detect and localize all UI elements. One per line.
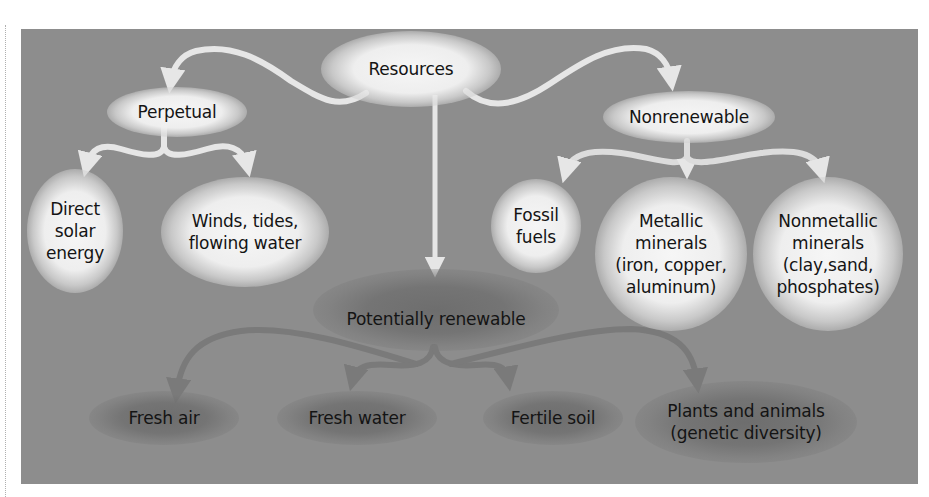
node-plants-and-animals: Plants and animals (genetic diversity) — [635, 381, 857, 463]
node-fresh-water: Fresh water — [277, 391, 437, 445]
node-winds-tides-label: Winds, tides, flowing water — [189, 210, 302, 254]
node-resources-label: Resources — [368, 58, 453, 80]
node-fertile-soil: Fertile soil — [483, 391, 623, 445]
node-direct-solar-energy-label: Direct solar energy — [46, 198, 104, 264]
node-resources: Resources — [321, 31, 501, 107]
node-plants-animals-label: Plants and animals (genetic diversity) — [667, 400, 824, 444]
node-direct-solar-energy: Direct solar energy — [27, 169, 123, 293]
node-perpetual-label: Perpetual — [137, 101, 216, 123]
node-fossil-fuels: Fossil fuels — [491, 179, 581, 273]
margin-dotted-rule — [5, 25, 6, 497]
node-fresh-air: Fresh air — [89, 391, 239, 445]
node-winds-tides-flowing-water: Winds, tides, flowing water — [161, 177, 329, 287]
node-nonmetallic-minerals-label: Nonmetallic minerals (clay,sand, phospha… — [776, 210, 879, 298]
node-metallic-minerals: Metallic minerals (iron, copper, aluminu… — [595, 177, 747, 331]
node-potentially-renewable-label: Potentially renewable — [346, 308, 525, 330]
node-metallic-minerals-label: Metallic minerals (iron, copper, aluminu… — [615, 210, 726, 298]
resources-diagram-panel: Resources Perpetual Nonrenewable Potenti… — [21, 29, 918, 484]
node-potentially-renewable: Potentially renewable — [313, 269, 559, 351]
arrow-nonrenewable-to-fossil — [566, 141, 687, 171]
node-nonrenewable-label: Nonrenewable — [629, 106, 749, 128]
node-nonrenewable: Nonrenewable — [603, 91, 775, 143]
node-fossil-fuels-label: Fossil fuels — [513, 204, 559, 248]
node-fresh-air-label: Fresh air — [129, 407, 200, 429]
arrow-perpetual-to-winds — [164, 146, 247, 165]
node-fresh-water-label: Fresh water — [309, 407, 406, 429]
node-perpetual: Perpetual — [107, 87, 247, 137]
node-fertile-soil-label: Fertile soil — [511, 407, 596, 429]
node-nonmetallic-minerals: Nonmetallic minerals (clay,sand, phospha… — [753, 177, 903, 331]
arrow-nonrenewable-to-nonmetallic — [687, 152, 821, 171]
